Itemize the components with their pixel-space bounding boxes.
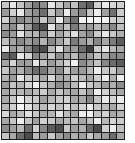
grid-cell [79,38,86,44]
grid-cell [56,31,63,37]
grid-cell [110,46,117,52]
grid-cell [17,38,24,44]
grid-cell [56,96,63,102]
grid-cell [71,75,78,81]
grid-cell [40,31,47,37]
grid-cell [117,104,124,110]
grid-cell [71,111,78,117]
grid-cell [40,60,47,66]
grid-cell [102,9,109,15]
grid-cell [33,53,40,59]
grayscale-grid [1,1,125,140]
grid-cell [2,53,9,59]
grid-cell [117,9,124,15]
grid-cell [64,82,71,88]
grid-cell [94,9,101,15]
grid-cell [79,89,86,95]
grid-cell [64,9,71,15]
grid-cell [40,89,47,95]
grid-cell [33,2,40,8]
grid-cell [64,67,71,73]
grid-cell [87,133,94,139]
grid-cell [2,31,9,37]
grid-cell [17,89,24,95]
grid-cell [110,9,117,15]
grid-cell [79,104,86,110]
grid-cell [17,2,24,8]
grid-cell [10,82,17,88]
grid-cell [25,24,32,30]
grid-cell [17,24,24,30]
grid-cell [87,53,94,59]
grid-cell [2,75,9,81]
grid-cell [2,17,9,23]
grid-cell [102,125,109,131]
grid-cell [40,75,47,81]
grid-cell [48,53,55,59]
grid-cell [110,133,117,139]
grid-cell [117,111,124,117]
grid-cell [2,96,9,102]
grid-cell [48,46,55,52]
grid-cell [110,31,117,37]
grid-cell [56,53,63,59]
grid-cell [87,9,94,15]
grid-cell [64,118,71,124]
grid-cell [40,24,47,30]
grid-cell [117,38,124,44]
grid-cell [25,60,32,66]
grid-cell [40,111,47,117]
grid-cell [48,118,55,124]
grid-cell [71,2,78,8]
grid-cell [33,60,40,66]
grid-cell [25,2,32,8]
grid-cell [25,53,32,59]
grid-cell [10,96,17,102]
grid-cell [48,111,55,117]
grid-cell [64,38,71,44]
grid-cell [64,46,71,52]
grid-cell [48,9,55,15]
grid-cell [48,38,55,44]
grid-cell [110,111,117,117]
grid-cell [48,31,55,37]
grid-cell [25,9,32,15]
grid-cell [25,104,32,110]
grid-cell [10,17,17,23]
grid-cell [17,75,24,81]
grid-cell [33,125,40,131]
grid-cell [17,53,24,59]
grid-cell [48,17,55,23]
grid-cell [64,125,71,131]
grid-cell [2,118,9,124]
grid-cell [79,46,86,52]
grid-cell [102,111,109,117]
grid-cell [25,17,32,23]
grid-cell [33,31,40,37]
grid-cell [48,82,55,88]
grid-cell [48,24,55,30]
grid-cell [102,60,109,66]
grid-cell [87,82,94,88]
grid-cell [33,118,40,124]
grid-cell [94,89,101,95]
grid-cell [33,38,40,44]
grid-cell [117,31,124,37]
grid-cell [110,67,117,73]
grid-cell [71,125,78,131]
grid-cell [102,82,109,88]
grid-cell [40,82,47,88]
grid-cell [25,46,32,52]
grid-cell [87,17,94,23]
grid-cell [94,24,101,30]
grid-cell [71,60,78,66]
grid-cell [2,46,9,52]
grid-cell [25,118,32,124]
grid-cell [102,96,109,102]
grid-cell [117,133,124,139]
grid-cell [10,125,17,131]
grid-cell [102,53,109,59]
grid-cell [40,38,47,44]
grid-cell [64,133,71,139]
grid-cell [87,96,94,102]
